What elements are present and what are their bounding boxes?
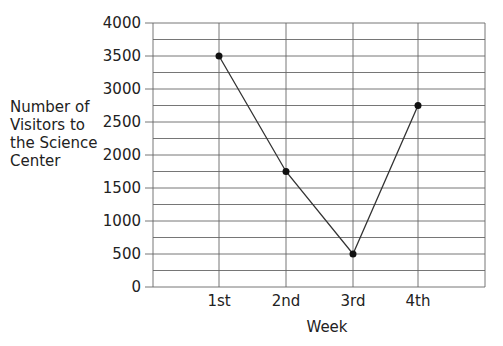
y-tick-label: 500 (112, 245, 141, 263)
data-point (283, 168, 290, 175)
y-tick-label: 1000 (103, 212, 141, 230)
data-point (415, 102, 422, 109)
x-axis-label: Week (306, 318, 347, 336)
x-tick-label: 2nd (272, 292, 301, 310)
x-tick-label: 3rd (341, 292, 366, 310)
grid-lines (153, 23, 485, 287)
x-tick-label: 4th (406, 292, 431, 310)
y-tick-label: 2500 (103, 113, 141, 131)
data-point (216, 53, 223, 60)
y-tick-label: 3500 (103, 47, 141, 65)
y-tick-label: 0 (131, 278, 141, 296)
y-tick-label: 3000 (103, 80, 141, 98)
x-tick-label: 1st (207, 292, 230, 310)
x-tick-labels: 1st2nd3rd4th (207, 292, 430, 310)
line-chart: 05001000150020002500300035004000 1st2nd3… (0, 0, 503, 346)
y-tick-labels: 05001000150020002500300035004000 (103, 14, 153, 296)
y-tick-label: 4000 (103, 14, 141, 32)
y-tick-label: 1500 (103, 179, 141, 197)
data-point (350, 251, 357, 258)
y-tick-label: 2000 (103, 146, 141, 164)
